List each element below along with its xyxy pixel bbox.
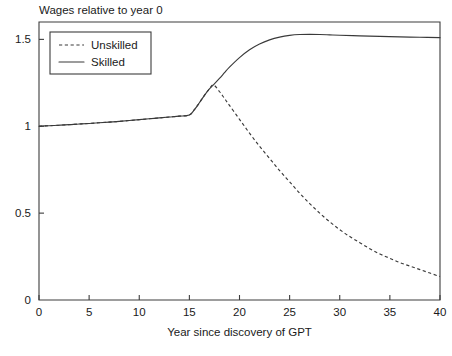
x-axis-ticks: 0510152025303540	[36, 295, 447, 318]
wages-line-chart: Wages relative to year 0 051015202530354…	[0, 0, 452, 356]
x-tick-label: 40	[434, 306, 447, 318]
chart-figure: Wages relative to year 0 051015202530354…	[0, 0, 452, 356]
y-tick-label: 1.5	[15, 33, 31, 45]
y-tick-label: 1	[25, 120, 31, 132]
x-tick-label: 5	[86, 306, 92, 318]
x-tick-label: 20	[233, 306, 246, 318]
legend-label-unskilled: Unskilled	[91, 39, 138, 51]
x-tick-label: 15	[183, 306, 196, 318]
x-tick-label: 35	[383, 306, 396, 318]
y-tick-label: 0	[25, 294, 31, 306]
y-axis-ticks: 00.511.5	[15, 33, 44, 306]
y-tick-label: 0.5	[15, 207, 31, 219]
chart-legend: UnskilledSkilled	[50, 32, 151, 74]
legend-label-skilled: Skilled	[91, 56, 125, 68]
series-line-unskilled	[39, 85, 440, 277]
x-tick-label: 10	[133, 306, 146, 318]
x-tick-label: 0	[36, 306, 42, 318]
x-tick-label: 30	[333, 306, 346, 318]
x-axis-label: Year since discovery of GPT	[167, 326, 312, 338]
chart-title: Wages relative to year 0	[39, 4, 163, 16]
x-tick-label: 25	[283, 306, 296, 318]
